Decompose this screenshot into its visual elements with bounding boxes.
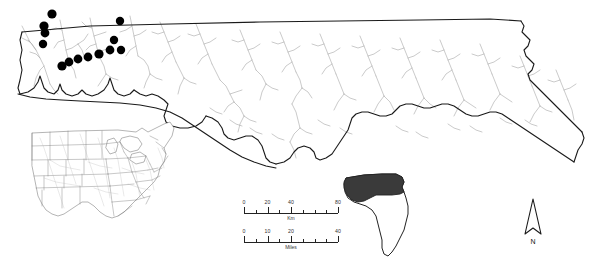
sampling-point: [94, 49, 103, 58]
kilometer-scale-bar: 0204080 Km: [244, 198, 338, 221]
scale-tick: [244, 236, 245, 242]
miles-scale-unit: Miles: [244, 244, 338, 250]
scale-tick: [326, 210, 327, 213]
sampling-point: [74, 55, 83, 64]
scale-tick: [326, 239, 327, 242]
sampling-point: [84, 53, 93, 62]
scale-tick: [291, 236, 292, 242]
north-arrow-icon: [516, 196, 550, 238]
sampling-point: [117, 46, 125, 54]
scale-tick: [256, 239, 257, 242]
map-figure: 0204080 Km 0102040 Miles N: [0, 0, 595, 270]
scale-tick: [279, 210, 280, 213]
florida-locator-inset: [342, 168, 422, 264]
scale-tick: [268, 207, 269, 213]
scale-tick: [315, 239, 316, 242]
sampling-points-layer: [39, 9, 125, 70]
scale-tick: [291, 207, 292, 213]
km-scale-unit: Km: [244, 215, 338, 221]
sampling-point: [106, 46, 115, 55]
scale-tick-label: 0: [243, 227, 246, 236]
scale-tick-label: 20: [288, 227, 294, 236]
north-arrow-label: N: [516, 238, 550, 246]
sampling-point: [110, 36, 118, 44]
scale-tick: [303, 210, 304, 213]
scale-tick: [338, 207, 339, 213]
scale-tick: [279, 239, 280, 242]
united-states-locator-inset: [14, 118, 189, 223]
mile-scale-bar: 0102040 Miles: [244, 227, 338, 250]
scale-tick-label: 80: [335, 198, 341, 207]
sampling-point: [47, 9, 56, 18]
km-scale-labels: 0204080: [244, 198, 338, 207]
scale-tick-label: 0: [243, 198, 246, 207]
scale-tick: [303, 239, 304, 242]
scale-tick: [268, 236, 269, 242]
scale-tick-label: 40: [288, 198, 294, 207]
sampling-point: [39, 40, 47, 48]
scale-tick-label: 10: [265, 227, 271, 236]
sampling-point: [57, 61, 66, 70]
north-arrow: N: [516, 196, 550, 246]
km-scale-ticks: [244, 207, 338, 214]
scale-tick-label: 40: [335, 227, 341, 236]
scale-tick: [244, 207, 245, 213]
scale-tick: [338, 236, 339, 242]
scale-tick: [256, 210, 257, 213]
sampling-point: [116, 17, 124, 25]
scale-tick: [315, 210, 316, 213]
sampling-point: [41, 29, 50, 38]
scale-tick-label: 20: [265, 198, 271, 207]
miles-scale-labels: 0102040: [244, 227, 338, 236]
miles-scale-ticks: [244, 236, 338, 243]
